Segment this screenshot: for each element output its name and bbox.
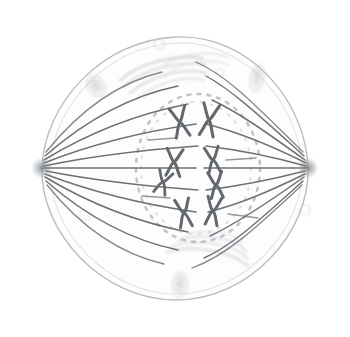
cell-diagram-figure: Cell in metaphase of mitosis bbox=[0, 0, 350, 337]
mitosis-cell-illustration bbox=[0, 0, 350, 337]
right-spindle-pole bbox=[297, 157, 319, 179]
left-spindle-pole bbox=[31, 157, 53, 179]
